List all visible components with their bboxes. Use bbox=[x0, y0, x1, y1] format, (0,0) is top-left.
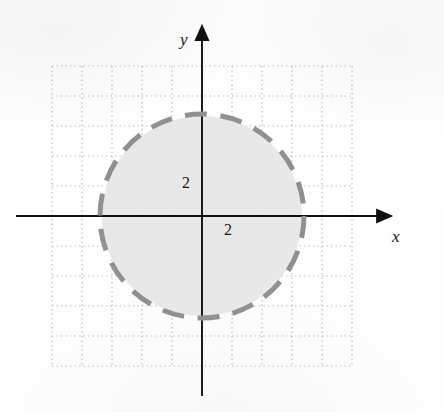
y-axis-label: y bbox=[180, 31, 188, 48]
y-axis-tick-label-2: 2 bbox=[182, 175, 190, 191]
coordinate-plane-plot bbox=[0, 0, 444, 412]
graph-figure: y x 2 2 bbox=[0, 0, 444, 412]
x-axis-label: x bbox=[392, 228, 400, 245]
x-axis-tick-label-2: 2 bbox=[224, 222, 232, 238]
